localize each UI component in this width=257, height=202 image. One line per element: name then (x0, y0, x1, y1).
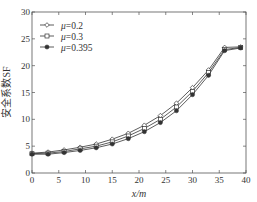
y-tick-label: 30 (21, 7, 31, 17)
x-axis-label: x/m (131, 188, 146, 199)
x-tick-label: 10 (81, 175, 91, 185)
legend: μ=0.2μ=0.3μ=0.395 (40, 21, 93, 53)
y-tick-label: 20 (21, 61, 31, 71)
axes: 0510152025303540051015202530 (21, 7, 251, 185)
y-tick-label: 25 (21, 34, 31, 44)
x-tick-label: 30 (188, 175, 198, 185)
legend-item: μ=0.2 (40, 21, 83, 31)
x-tick-label: 20 (135, 175, 145, 185)
x-tick-label: 40 (242, 175, 252, 185)
y-tick-label: 15 (21, 88, 31, 98)
x-tick-label: 15 (108, 175, 118, 185)
x-tick-label: 35 (215, 175, 225, 185)
y-axis-label: 安全系数SF (0, 66, 12, 118)
legend-label: μ=0.2 (60, 21, 83, 31)
x-tick-label: 25 (161, 175, 171, 185)
legend-item: μ=0.3 (40, 32, 83, 42)
legend-label: μ=0.395 (60, 43, 93, 53)
x-tick-label: 5 (57, 175, 62, 185)
y-tick-label: 5 (26, 141, 31, 151)
y-tick-label: 0 (26, 168, 31, 178)
series-lines (30, 45, 243, 157)
y-tick-label: 10 (21, 114, 31, 124)
series-3 (30, 46, 243, 156)
legend-label: μ=0.3 (60, 32, 83, 42)
line-chart: 0510152025303540051015202530 μ=0.2μ=0.3μ… (0, 0, 257, 202)
legend-item: μ=0.395 (40, 43, 93, 53)
series-2 (30, 45, 243, 155)
x-tick-label: 0 (30, 175, 35, 185)
series-1 (30, 45, 243, 156)
